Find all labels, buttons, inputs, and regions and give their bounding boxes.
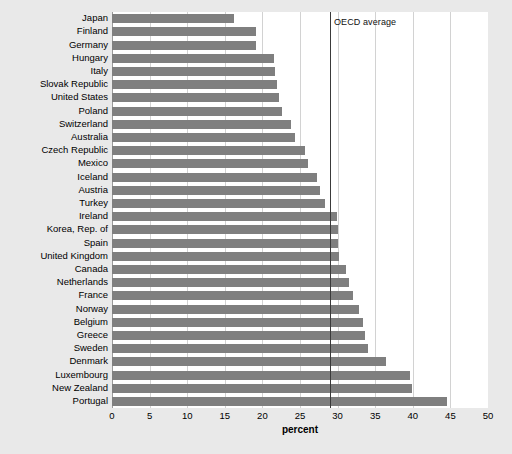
bar (112, 239, 338, 248)
category-label: Poland (8, 106, 108, 116)
oecd-average-label: OECD average (334, 17, 396, 27)
bar (112, 80, 277, 89)
x-tick-label: 20 (257, 410, 268, 421)
category-label: Turkey (8, 198, 108, 208)
bar (112, 93, 279, 102)
bar (112, 278, 349, 287)
category-label: Denmark (8, 356, 108, 366)
category-label: Spain (8, 238, 108, 248)
category-label: Japan (8, 13, 108, 23)
category-label: Korea, Rep. of (8, 224, 108, 234)
bar (112, 186, 320, 195)
bar (112, 146, 305, 155)
chart-figure-inner: JapanFinlandGermanyHungaryItalySlovak Re… (6, 4, 506, 440)
bar (112, 291, 353, 300)
category-label: Netherlands (8, 277, 108, 287)
category-label: Czech Republic (8, 145, 108, 155)
x-tick-label: 45 (445, 410, 456, 421)
bar (112, 384, 412, 393)
bar (112, 133, 295, 142)
category-label: Belgium (8, 317, 108, 327)
x-axis-title: percent (112, 424, 488, 435)
category-axis: JapanFinlandGermanyHungaryItalySlovak Re… (6, 12, 108, 408)
category-label: Australia (8, 132, 108, 142)
category-label: Norway (8, 304, 108, 314)
category-label: Hungary (8, 53, 108, 63)
bar (112, 54, 274, 63)
bar (112, 107, 282, 116)
category-label: Greece (8, 330, 108, 340)
bar (112, 173, 317, 182)
category-label: United States (8, 92, 108, 102)
bar (112, 265, 346, 274)
category-label: Iceland (8, 172, 108, 182)
bar (112, 41, 256, 50)
category-label: Germany (8, 40, 108, 50)
bar (112, 331, 365, 340)
bar (112, 371, 410, 380)
gridline-45 (450, 12, 451, 408)
category-label: Italy (8, 66, 108, 76)
category-label: Luxembourg (8, 370, 108, 380)
category-label: Sweden (8, 343, 108, 353)
plot-area: OECD average (112, 12, 488, 408)
category-label: France (8, 290, 108, 300)
x-axis-ticks: 05101520253035404550 (112, 408, 488, 424)
x-tick-label: 50 (483, 410, 494, 421)
x-tick-label: 30 (332, 410, 343, 421)
bar (112, 252, 339, 261)
x-tick-label: 35 (370, 410, 381, 421)
category-label: New Zealand (8, 383, 108, 393)
bar (112, 27, 256, 36)
category-label: Portugal (8, 396, 108, 406)
x-tick-label: 25 (295, 410, 306, 421)
category-label: Finland (8, 26, 108, 36)
category-label: Mexico (8, 158, 108, 168)
bar (112, 120, 291, 129)
x-tick-label: 40 (408, 410, 419, 421)
bar (112, 212, 337, 221)
gridline-40 (413, 12, 414, 408)
x-tick-label: 10 (182, 410, 193, 421)
chart-figure: JapanFinlandGermanyHungaryItalySlovak Re… (0, 0, 512, 454)
gridline-35 (375, 12, 376, 408)
category-label: Switzerland (8, 119, 108, 129)
bar (112, 159, 308, 168)
bar (112, 225, 338, 234)
bar (112, 14, 234, 23)
category-label: Ireland (8, 211, 108, 221)
category-label: Slovak Republic (8, 79, 108, 89)
bar (112, 357, 386, 366)
x-tick-label: 5 (147, 410, 152, 421)
x-tick-label: 0 (109, 410, 114, 421)
bar (112, 305, 359, 314)
x-tick-label: 15 (220, 410, 231, 421)
bar (112, 67, 275, 76)
oecd-average-line (330, 12, 331, 408)
bar (112, 318, 363, 327)
bar (112, 397, 447, 406)
category-label: Austria (8, 185, 108, 195)
bar (112, 199, 325, 208)
category-label: United Kingdom (8, 251, 108, 261)
category-label: Canada (8, 264, 108, 274)
